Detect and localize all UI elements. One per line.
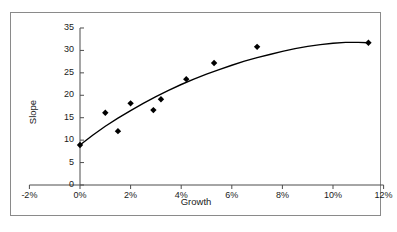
x-axis-ticks bbox=[29, 185, 383, 189]
y-tick-label: 35 bbox=[46, 23, 74, 32]
trend-line bbox=[80, 42, 368, 145]
y-tick-label: 30 bbox=[46, 45, 74, 54]
data-point-marker bbox=[254, 44, 260, 50]
data-point-marker bbox=[150, 107, 156, 113]
data-points bbox=[77, 40, 372, 149]
data-point-marker bbox=[127, 100, 133, 106]
data-point-marker bbox=[211, 60, 217, 66]
y-tick-label: 5 bbox=[46, 158, 74, 167]
y-tick-label: 0 bbox=[46, 180, 74, 189]
y-tick-label: 10 bbox=[46, 135, 74, 144]
data-point-marker bbox=[102, 110, 108, 116]
y-tick-label: 25 bbox=[46, 68, 74, 77]
y-axis-title: Slope bbox=[27, 100, 38, 124]
y-tick-label: 20 bbox=[46, 90, 74, 99]
data-point-marker bbox=[115, 128, 121, 134]
data-point-marker bbox=[158, 96, 164, 102]
data-point-marker bbox=[365, 40, 371, 46]
y-axis-ticks bbox=[80, 28, 84, 185]
x-axis-title: Growth bbox=[0, 197, 392, 207]
y-tick-label: 15 bbox=[46, 113, 74, 122]
axis-lines bbox=[29, 28, 383, 185]
